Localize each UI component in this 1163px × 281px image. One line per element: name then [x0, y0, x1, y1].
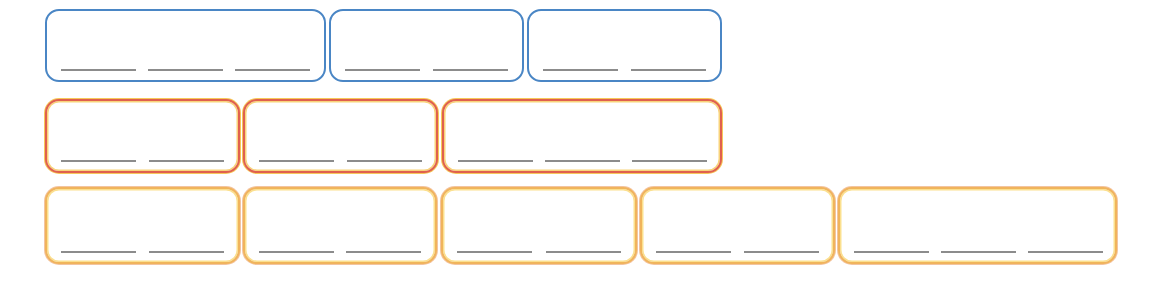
blank-group [61, 69, 310, 71]
answer-blank[interactable] [61, 251, 136, 253]
red-box-3 [442, 99, 722, 173]
answer-blank[interactable] [631, 69, 706, 71]
answer-blank[interactable] [149, 160, 224, 162]
orange-box-3 [441, 187, 637, 264]
answer-blank[interactable] [149, 251, 224, 253]
orange-box-5 [838, 187, 1117, 264]
orange-box-1 [45, 187, 240, 264]
answer-blank[interactable] [941, 251, 1016, 253]
orange-row [0, 187, 1163, 264]
answer-blank[interactable] [235, 69, 310, 71]
answer-blank[interactable] [457, 251, 532, 253]
blank-group [61, 160, 224, 162]
answer-blank[interactable] [1028, 251, 1103, 253]
red-box-2 [243, 99, 438, 173]
blank-group [259, 160, 422, 162]
blue-row [0, 9, 1163, 81]
answer-blank[interactable] [345, 69, 420, 71]
blue-box-2 [329, 9, 524, 82]
answer-blank[interactable] [61, 160, 136, 162]
orange-box-2 [243, 187, 437, 264]
answer-blank[interactable] [546, 251, 621, 253]
answer-blank[interactable] [854, 251, 929, 253]
blue-box-3 [527, 9, 722, 82]
orange-box-4 [640, 187, 835, 264]
blue-box-1 [45, 9, 326, 82]
blank-group [543, 69, 706, 71]
answer-blank[interactable] [148, 69, 223, 71]
blank-group [458, 160, 706, 162]
answer-blank[interactable] [347, 160, 422, 162]
blank-group [61, 251, 224, 253]
red-row [0, 99, 1163, 173]
answer-blank[interactable] [259, 251, 334, 253]
answer-blank[interactable] [61, 69, 136, 71]
blank-group [259, 251, 421, 253]
answer-blank[interactable] [259, 160, 334, 162]
red-box-1 [45, 99, 240, 173]
answer-blank[interactable] [458, 160, 533, 162]
blank-group [457, 251, 621, 253]
blank-group [345, 69, 508, 71]
answer-blank[interactable] [433, 69, 508, 71]
answer-blank[interactable] [632, 160, 707, 162]
answer-blank[interactable] [744, 251, 819, 253]
blank-group [656, 251, 819, 253]
answer-blank[interactable] [545, 160, 620, 162]
blank-group [854, 251, 1101, 253]
answer-blank[interactable] [346, 251, 421, 253]
answer-blank[interactable] [656, 251, 731, 253]
answer-blank[interactable] [543, 69, 618, 71]
